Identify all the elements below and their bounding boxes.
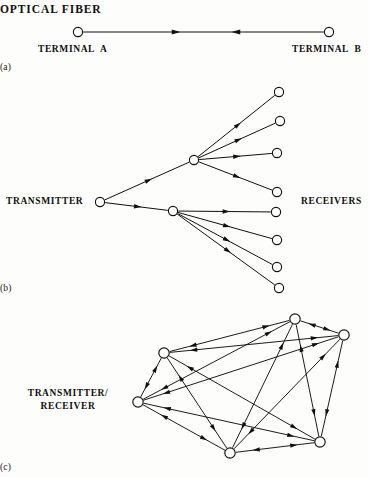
terminal-a-label: TERMINAL A [38, 44, 107, 55]
arrowhead-hub-lower-to-rx-6-0 [223, 223, 231, 227]
tree-node-hub-upper[interactable] [189, 155, 198, 164]
arrowhead-n-left-to-n-upper-left [152, 366, 157, 373]
panel-c-caption: (c) [0, 462, 369, 473]
tree-node-hub-lower[interactable] [168, 206, 177, 215]
tree-node-rx-7[interactable] [272, 262, 281, 271]
mesh-node-n-left[interactable] [133, 397, 143, 407]
receivers-label: RECEIVERS [301, 196, 362, 207]
tree-node-rx-6[interactable] [272, 235, 281, 244]
arrowhead-n-left-to-n-top [264, 331, 271, 336]
arrowhead-n-top-to-n-upper-left [189, 343, 197, 347]
arrowhead-n-bottom-to-n-top [279, 343, 284, 350]
tree-node-rx-1[interactable] [274, 87, 283, 96]
arrowhead-hub-lower-to-rx-5-0 [223, 209, 231, 213]
mesh-node-n-right-top[interactable] [339, 330, 349, 340]
tree-node-rx-5[interactable] [271, 207, 280, 216]
link-n-bottom-to-n-right-bottom [236, 443, 314, 453]
arrowhead-n-right-top-to-n-top [309, 323, 316, 327]
arrowhead-n-top-to-n-right-top [323, 326, 330, 330]
arrowhead-n-right-top-to-n-left [163, 390, 170, 394]
arrowhead-n-left-to-n-right-bottom [287, 433, 294, 437]
tree-node-transmitter[interactable] [95, 197, 104, 206]
arrowhead-n-top-to-n-left [161, 385, 168, 390]
arrowhead-transmitter-to-hub-lower-0 [134, 204, 142, 208]
arrowhead-hub-upper-to-rx-4-0 [233, 173, 241, 178]
arrowhead-n-upper-left-to-n-top [262, 325, 270, 329]
arrowhead-n-upper-left-to-n-left [145, 382, 150, 389]
tree-node-rx-2[interactable] [275, 116, 284, 125]
arrowhead-fiber-left-1 [232, 30, 241, 35]
arrowhead-n-upper-left-to-n-right-top [311, 336, 318, 340]
arrowhead-n-top-to-n-right-bottom [311, 409, 315, 416]
arrowhead-n-right-bottom-to-n-left [164, 407, 171, 411]
link-n-top-to-n-right-top [301, 321, 339, 333]
arrowhead-n-bottom-to-n-right-bottom [290, 444, 297, 448]
panel-a-title: OPTICAL FIBER [0, 3, 369, 16]
terminal-node-terminal-a[interactable] [73, 27, 82, 36]
mesh-node-n-bottom[interactable] [225, 448, 235, 458]
arrowhead-n-upper-left-to-n-bottom [210, 424, 216, 431]
panel-a-caption: (a) [0, 62, 369, 73]
mesh-node-n-top[interactable] [290, 314, 300, 324]
arrowhead-fiber-right-0 [172, 30, 181, 35]
arrowhead-n-left-to-n-right-top [312, 343, 319, 347]
transmitter-receiver-label-line2: RECEIVER [10, 401, 126, 412]
arrowhead-hub-upper-to-rx-2-0 [234, 138, 242, 143]
arrowhead-n-right-bottom-to-n-bottom [253, 447, 260, 451]
arrowhead-hub-lower-to-rx-7-0 [223, 236, 231, 241]
arrowhead-n-right-bottom-to-n-upper-left [187, 366, 194, 371]
arrowhead-n-right-bottom-to-n-right-top [335, 361, 339, 368]
arrowhead-n-upper-left-to-n-right-bottom [290, 424, 297, 429]
panel-b-caption: (b) [0, 283, 369, 294]
mesh-node-n-right-bottom[interactable] [315, 437, 325, 447]
transmitter-label: TRANSMITTER [6, 196, 83, 207]
network-topology-figure: OPTICAL FIBER TERMINAL A TERMINAL B (a) … [0, 0, 369, 477]
arrowhead-n-right-top-to-n-upper-left [190, 348, 197, 352]
arrowhead-layer [134, 30, 339, 452]
transmitter-receiver-label-line1: TRANSMITTER/ [10, 388, 126, 399]
arrowhead-n-left-to-n-bottom [200, 435, 207, 440]
mesh-node-n-upper-left[interactable] [159, 348, 169, 358]
terminal-node-terminal-b[interactable] [324, 27, 333, 36]
tree-node-rx-3[interactable] [272, 148, 281, 157]
terminal-b-label: TERMINAL B [292, 44, 361, 55]
tree-node-rx-4[interactable] [272, 187, 281, 196]
arrowhead-hub-upper-to-rx-3-0 [233, 155, 241, 159]
arrowhead-n-right-top-to-n-right-bottom [325, 409, 329, 416]
arrowhead-hub-lower-to-rx-8-0 [224, 247, 231, 253]
arrowhead-transmitter-to-hub-upper-0 [144, 179, 152, 184]
arrowhead-n-bottom-to-n-left [161, 415, 168, 420]
